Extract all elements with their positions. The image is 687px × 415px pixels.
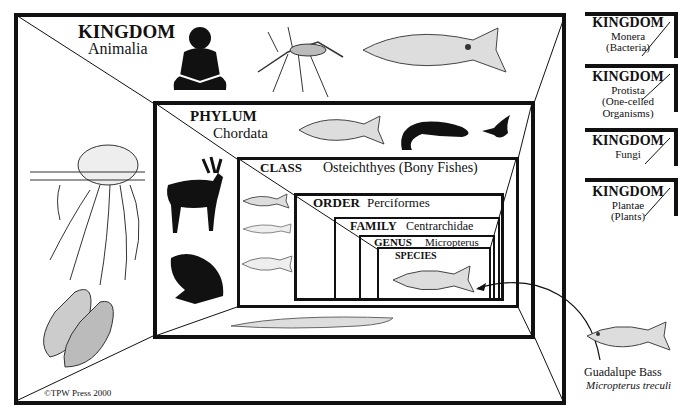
featured-species-scientific-name: Micropterus treculi (586, 380, 671, 391)
copyright-text: ©TPW Press 2000 (44, 389, 111, 398)
guadalupe-bass-icon (584, 318, 672, 358)
featured-species-common-name: Guadalupe Bass (584, 366, 662, 378)
